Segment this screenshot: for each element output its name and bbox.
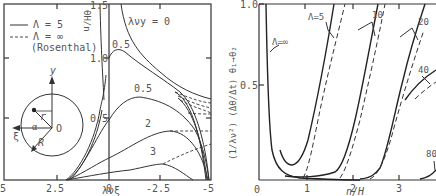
right-x-tick-label: 3 (396, 183, 402, 194)
curve-label-lambda-40: 40 (418, 65, 429, 75)
curve-label-lvy-2: 2 (145, 118, 151, 129)
right-x-tick-label: 1 (304, 183, 310, 194)
chart-canvas: 5 2.5 0 -2.5 -5 1.5 1.0 0.5 λνξ θH/n Λ =… (0, 0, 436, 196)
inset-label-r: r (40, 111, 46, 122)
curve-label-lambda-5: Λ=5 (308, 12, 324, 22)
left-x-tick-label: 5 (0, 183, 6, 194)
legend-dashed-label: Λ = ∞ (33, 31, 63, 42)
curve-lvy-3 (66, 164, 193, 180)
curve-lambda-80 (420, 170, 436, 179)
figure: 5 2.5 0 -2.5 -5 1.5 1.0 0.5 λνξ θH/n Λ =… (0, 0, 436, 196)
right-y-tick-label: 1.0 (240, 0, 258, 10)
right-chart: 0 1 2 3 1.0 0.5 n/H (1/λν²) (Δθ/Δt) θ₁→θ… (228, 0, 436, 196)
curve-label-lambda-inf: Λ=∞ (272, 37, 289, 47)
curve-label-lambda-10: 10 (372, 10, 383, 20)
curve-steep (66, 75, 106, 180)
left-x-tick-label: 2.5 (46, 183, 64, 194)
left-x-tick-label: -5 (202, 183, 214, 194)
curve-steep (100, 4, 104, 100)
curve-label-lambda-80: 80 (426, 149, 436, 159)
inset-point (32, 108, 36, 112)
inset-label-xi: ξ (13, 131, 19, 142)
legend-note: (Rosenthal) (31, 42, 97, 53)
curve-lambda-10 (285, 4, 378, 177)
curve-label-lambda-20: 20 (418, 17, 429, 27)
right-x-axis-label: n/H (346, 186, 365, 196)
inset-label-radius: R (38, 137, 44, 148)
inset-label-y: y (49, 65, 56, 76)
curve-label-lvy-0.5: 0.5 (112, 39, 130, 50)
curve-label-leader (434, 161, 435, 170)
left-x-tick-label: -2.5 (146, 183, 170, 194)
inset-diagram: y ξ r α O R (12, 65, 83, 156)
right-y-tick-label: 0.5 (240, 80, 258, 91)
legend-solid-label: Λ = 5 (33, 19, 63, 30)
curve-label-lvy-0: λνy = 0 (128, 16, 170, 27)
left-chart: 5 2.5 0 -2.5 -5 1.5 1.0 0.5 λνξ θH/n Λ =… (0, 0, 214, 196)
curve-label-leader (400, 28, 418, 40)
curve-lvy-0.5 (109, 50, 209, 180)
left-x-axis-label: λνξ (102, 185, 120, 196)
curve-label-lvy-3: 3 (150, 146, 156, 157)
left-y-axis-label: θH/n (82, 10, 92, 32)
curve-lvy-2 (68, 131, 208, 180)
curve-lambda-5-dashed (303, 4, 345, 178)
inset-label-origin: O (56, 123, 62, 134)
right-x-tick-label: 0 (254, 184, 260, 195)
left-y-tick-label: 1.0 (90, 53, 108, 64)
inset-label-alpha: α (32, 122, 38, 132)
curve-label-lvy-1: 0.5 (134, 83, 152, 94)
right-y-axis-label: (1/λν²) (Δθ/Δt) θ₁→θ₂ (228, 46, 238, 160)
curve-lambda-20 (360, 4, 425, 179)
inset-y-arrow-icon (49, 76, 55, 84)
